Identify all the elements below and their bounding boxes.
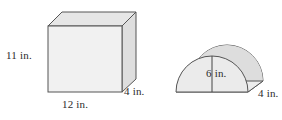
- prism-side-face: [122, 12, 136, 92]
- figure-canvas: 11 in. 12 in. 4 in. 6 in. 4 in.: [0, 0, 282, 120]
- label-cylinder-depth: 4 in.: [258, 87, 279, 99]
- solids-diagram: [0, 0, 282, 120]
- rectangular-prism: [48, 12, 136, 92]
- label-prism-height: 11 in.: [6, 49, 32, 61]
- label-cylinder-height: 6 in.: [206, 67, 227, 79]
- prism-front-face: [48, 26, 122, 92]
- prism-top-face: [48, 12, 136, 26]
- label-prism-width: 12 in.: [62, 98, 88, 110]
- label-prism-depth: 4 in.: [124, 85, 145, 97]
